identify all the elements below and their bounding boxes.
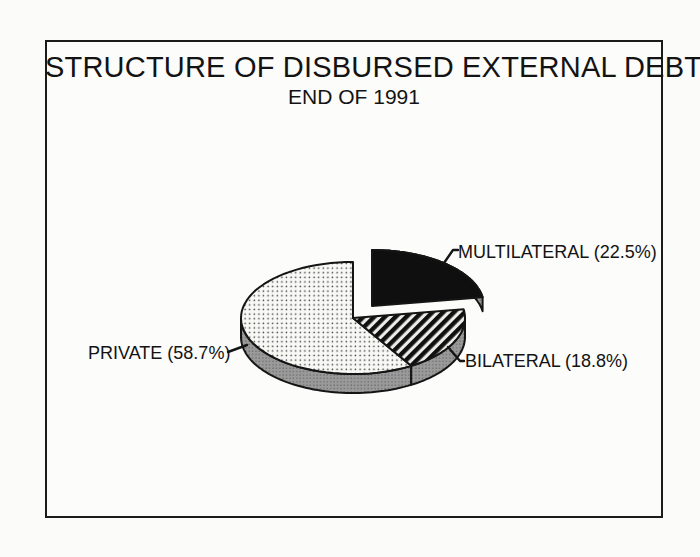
scanned-chart-page: STRUCTURE OF DISBURSED EXTERNAL DEBT END… — [0, 0, 700, 557]
leader-multilateral — [444, 250, 458, 263]
slice-label-multilateral: MULTILATERAL (22.5%) — [458, 243, 657, 262]
slice-label-bilateral: BILATERAL (18.8%) — [465, 352, 628, 371]
pie-chart — [0, 0, 700, 557]
slice-label-private: PRIVATE (58.7%) — [88, 344, 230, 363]
